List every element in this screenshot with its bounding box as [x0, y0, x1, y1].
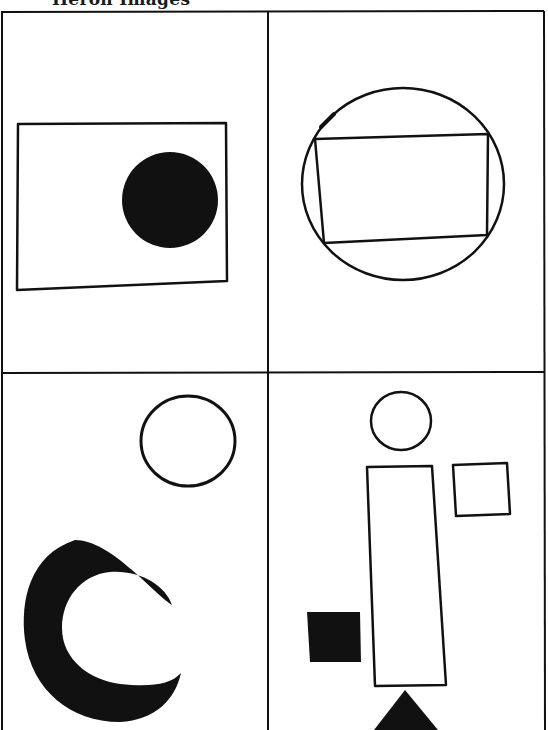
circle-outline: [141, 396, 235, 486]
inscribed-rectangle: [315, 134, 488, 243]
square-outline: [453, 463, 510, 516]
filled-crescent: [24, 540, 181, 722]
grid-frame: [1, 11, 545, 730]
filled-square: [307, 612, 361, 662]
panel-top-left: [17, 123, 227, 290]
panel-top-right: [302, 88, 504, 280]
pen-mark: [321, 114, 334, 127]
filled-circle: [122, 152, 218, 248]
panel-bottom-right: [307, 392, 510, 730]
tall-rectangle: [367, 466, 446, 686]
panel-bottom-left: [24, 396, 235, 722]
small-circle: [371, 392, 431, 450]
figure-grid: [0, 0, 548, 730]
filled-triangle: [374, 690, 438, 730]
